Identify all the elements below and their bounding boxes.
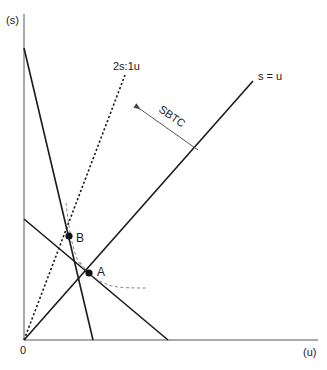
point-b bbox=[65, 232, 72, 239]
shallow-budget-line bbox=[24, 219, 168, 340]
skill-ratio-label: 2s:1u bbox=[113, 60, 140, 72]
sbtc-label: SBTC bbox=[157, 103, 188, 130]
point-b-label: B bbox=[76, 231, 84, 245]
diagram: (s) (u) 0 s = u 2s:1u SBTC B A bbox=[0, 0, 327, 370]
origin-label: 0 bbox=[20, 344, 26, 356]
y-axis-label: (s) bbox=[6, 14, 19, 26]
equal-ratio-label: s = u bbox=[258, 70, 282, 82]
point-a-label: A bbox=[97, 265, 105, 279]
steep-budget-line bbox=[24, 48, 93, 340]
x-axis-label: (u) bbox=[303, 346, 316, 358]
equal-ratio-ray bbox=[24, 81, 253, 340]
point-a bbox=[85, 269, 92, 276]
